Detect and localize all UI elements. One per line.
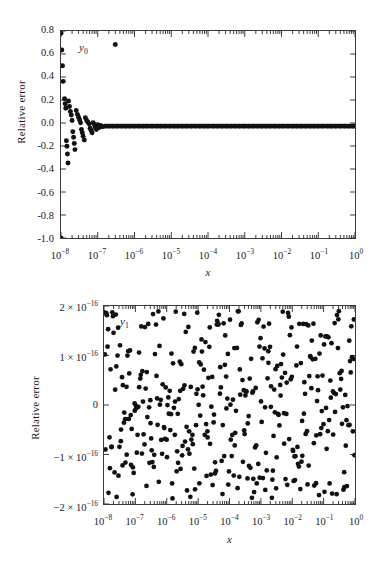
- data-point: [327, 481, 332, 486]
- data-point: [78, 120, 83, 125]
- data-point: [258, 336, 263, 341]
- data-point: [229, 454, 234, 459]
- data-point: [82, 138, 87, 143]
- data-point: [113, 42, 118, 47]
- data-point: [220, 492, 225, 497]
- y-tick-label: -0.2: [14, 141, 54, 152]
- data-point: [119, 427, 124, 432]
- data-point: [302, 411, 307, 416]
- data-point: [328, 378, 333, 383]
- data-point: [114, 364, 119, 369]
- x-tick-label: 10−2: [264, 248, 300, 261]
- x-tick-label: 100: [338, 514, 374, 527]
- data-point: [345, 404, 350, 409]
- data-point: [239, 321, 244, 326]
- data-point: [261, 476, 266, 481]
- scatter-canvas-y1: [104, 306, 355, 504]
- data-point: [315, 399, 320, 404]
- data-point: [129, 427, 134, 432]
- data-point: [202, 367, 207, 372]
- data-point: [314, 481, 319, 486]
- data-point: [336, 317, 341, 322]
- data-point: [325, 429, 330, 434]
- data-point: [289, 374, 294, 379]
- scatter-canvas-y0: [61, 31, 355, 238]
- data-point: [220, 423, 225, 428]
- data-point: [61, 63, 65, 68]
- data-point: [341, 405, 346, 410]
- data-point: [216, 312, 221, 317]
- x-tick-label: 10−5: [153, 248, 189, 261]
- data-point: [280, 375, 285, 380]
- data-point: [350, 429, 355, 434]
- data-point: [324, 446, 329, 451]
- data-point: [300, 453, 305, 458]
- data-point: [249, 356, 254, 361]
- x-tick-label: 10−4: [190, 248, 226, 261]
- data-point: [274, 455, 279, 460]
- data-point: [210, 375, 215, 380]
- y-tick-label: -0.6: [14, 188, 54, 199]
- data-point: [351, 317, 355, 322]
- x-tick-label: 10−3: [227, 248, 263, 261]
- data-point: [167, 388, 172, 393]
- data-point: [171, 361, 176, 366]
- data-point: [122, 410, 127, 415]
- data-point: [228, 437, 233, 442]
- data-point: [260, 356, 265, 361]
- data-point: [64, 144, 69, 149]
- y-tick-label: −1 × 10−16: [16, 450, 98, 463]
- data-point: [112, 470, 117, 475]
- data-point: [130, 492, 135, 497]
- data-point: [334, 392, 339, 397]
- data-point: [199, 337, 204, 342]
- data-point: [338, 387, 343, 392]
- data-point: [298, 487, 303, 492]
- data-point: [196, 402, 201, 407]
- data-point: [347, 338, 352, 343]
- data-point: [302, 380, 307, 385]
- series-label-y1: y1: [120, 315, 129, 330]
- data-point: [147, 405, 152, 410]
- x-tick-label: 10−8: [85, 514, 121, 527]
- data-point: [120, 375, 125, 380]
- data-point: [316, 388, 321, 393]
- data-point: [278, 383, 283, 388]
- data-point: [254, 443, 259, 448]
- data-point: [322, 489, 327, 494]
- data-point: [182, 383, 187, 388]
- data-point: [343, 443, 348, 448]
- data-point: [124, 452, 129, 457]
- data-point: [161, 316, 166, 321]
- data-point: [295, 445, 300, 450]
- data-point: [114, 495, 119, 500]
- data-point: [134, 450, 139, 455]
- data-point: [332, 321, 337, 326]
- data-point: [295, 344, 300, 349]
- data-point: [207, 344, 212, 349]
- figure-panel-y0: Relative error 0.80.60.40.20.0-0.2-0.4-0…: [0, 0, 378, 290]
- plot-area-y0: y0: [60, 30, 356, 239]
- data-point: [201, 393, 206, 398]
- data-point: [259, 399, 264, 404]
- data-point: [190, 442, 195, 447]
- series-label-y0: y0: [79, 41, 88, 56]
- data-point: [157, 344, 162, 349]
- data-point: [65, 152, 70, 157]
- data-point: [194, 423, 199, 428]
- data-point: [247, 376, 252, 381]
- data-point: [170, 496, 175, 501]
- data-point: [218, 385, 223, 390]
- data-point: [306, 323, 311, 328]
- data-point: [186, 325, 191, 330]
- data-point: [61, 31, 63, 36]
- data-point: [234, 408, 239, 413]
- data-point: [245, 476, 250, 481]
- data-point: [109, 444, 114, 449]
- data-point: [104, 447, 108, 452]
- data-point: [331, 432, 336, 437]
- data-point: [106, 327, 111, 332]
- y-tick-label: -1.0: [14, 234, 54, 245]
- data-point: [169, 351, 174, 356]
- data-point: [232, 443, 237, 448]
